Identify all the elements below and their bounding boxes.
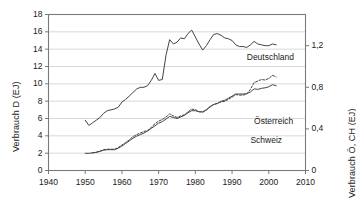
y-axis-left-tick: 14 xyxy=(27,44,43,54)
series-label-deutschland: Deutschland xyxy=(247,52,294,62)
y-axis-left-tick: 6 xyxy=(27,113,43,123)
series-line-deutschland xyxy=(85,30,276,125)
chart-plot-area xyxy=(0,0,356,204)
x-axis-tick: 1960 xyxy=(105,177,139,187)
series-label-österreich: Österreich xyxy=(254,116,293,126)
y-axis-left-title: Verbrauch D (EJ) xyxy=(11,81,21,152)
y-axis-left-tick: 4 xyxy=(27,130,43,140)
y-axis-right-title: Verbrauch Ö, CH (EJ) xyxy=(347,108,356,198)
x-axis-tick: 1990 xyxy=(215,177,249,187)
y-axis-right-tick: 1,2 xyxy=(312,40,332,50)
y-axis-left-tick: 0 xyxy=(27,165,43,175)
axis-ticks xyxy=(45,15,309,175)
y-axis-right-tick: 0,8 xyxy=(312,82,332,92)
plot-frame xyxy=(49,15,306,171)
series-label-schweiz: Schweiz xyxy=(250,135,282,145)
x-axis-tick: 1940 xyxy=(32,177,66,187)
y-axis-right-tick: 0,4 xyxy=(312,123,332,133)
x-axis-tick: 1970 xyxy=(142,177,176,187)
y-axis-left-tick: 8 xyxy=(27,96,43,106)
y-axis-left-tick: 2 xyxy=(27,148,43,158)
data-series xyxy=(85,30,276,153)
series-line-schweiz xyxy=(85,85,276,154)
y-axis-left-tick: 10 xyxy=(27,78,43,88)
x-axis-tick: 2010 xyxy=(289,177,323,187)
series-line-österreich xyxy=(93,75,277,152)
y-axis-left-tick: 16 xyxy=(27,26,43,36)
x-axis-tick: 1980 xyxy=(178,177,212,187)
chart-figure: Verbrauch D (EJ) Verbrauch Ö, CH (EJ) 02… xyxy=(0,0,356,204)
x-axis-tick: 2000 xyxy=(252,177,286,187)
gridlines xyxy=(49,15,306,171)
y-axis-right-tick: 0 xyxy=(312,165,332,175)
y-axis-left-tick: 18 xyxy=(27,9,43,19)
y-axis-left-tick: 12 xyxy=(27,61,43,71)
x-axis-tick: 1950 xyxy=(68,177,102,187)
